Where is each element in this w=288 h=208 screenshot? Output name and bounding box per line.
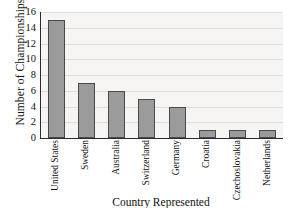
x-tick-label: Czechoslovakia <box>232 140 242 200</box>
plot-area <box>40 12 283 139</box>
x-tick-label: Germany <box>171 140 181 175</box>
bar-slot <box>223 12 253 138</box>
x-tick-label: Croatia <box>201 140 211 168</box>
x-tick-label: Australia <box>111 140 121 175</box>
x-tick-slot: Germany <box>161 140 191 192</box>
y-tick-label: 10 <box>14 54 36 65</box>
bar <box>199 130 216 138</box>
x-tick-label: Netherlands <box>262 140 272 186</box>
x-tick-slot: United States <box>40 140 70 192</box>
bar <box>108 91 125 138</box>
x-tick-slot: Netherlands <box>252 140 282 192</box>
y-tick-label: 8 <box>14 70 36 81</box>
bar-slot <box>102 12 132 138</box>
x-tick-slot: Czechoslovakia <box>222 140 252 192</box>
y-tick-label: 4 <box>14 101 36 112</box>
bar-slot <box>192 12 222 138</box>
bars-layer <box>41 12 283 138</box>
bar <box>78 83 95 138</box>
y-tick-label: 0 <box>14 133 36 144</box>
bar-slot <box>253 12 283 138</box>
bar <box>48 20 65 138</box>
y-axis-tick-labels: 0246810121416 <box>14 8 36 138</box>
y-tick-label: 2 <box>14 117 36 128</box>
x-tick-label: United States <box>50 140 60 191</box>
x-tick-slot: Switzerland <box>131 140 161 192</box>
bar-slot <box>132 12 162 138</box>
bar <box>229 130 246 138</box>
x-tick-label: Switzerland <box>141 140 151 185</box>
y-tick-label: 6 <box>14 86 36 97</box>
bar <box>138 99 155 138</box>
bar <box>259 130 276 138</box>
x-tick-slot: Croatia <box>191 140 221 192</box>
bar-slot <box>162 12 192 138</box>
bar-slot <box>71 12 101 138</box>
y-tick-label: 16 <box>14 7 36 18</box>
bar <box>169 107 186 139</box>
x-axis-title: Country Represented <box>40 196 282 208</box>
x-tick-slot: Australia <box>101 140 131 192</box>
bar-chart-figure: Number of Championships 0246810121416 Un… <box>0 0 288 208</box>
bar-slot <box>41 12 71 138</box>
x-tick-label: Sweden <box>80 140 90 170</box>
x-tick-slot: Sweden <box>70 140 100 192</box>
y-tick-label: 14 <box>14 23 36 34</box>
y-tick-label: 12 <box>14 38 36 49</box>
x-axis-tick-labels: United StatesSwedenAustraliaSwitzerlandG… <box>40 140 282 192</box>
